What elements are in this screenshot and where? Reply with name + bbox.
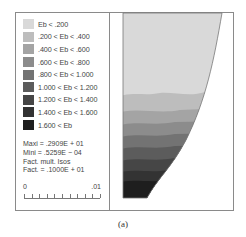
figure-caption: (a) (118, 219, 128, 229)
contour-plot (0, 0, 246, 237)
